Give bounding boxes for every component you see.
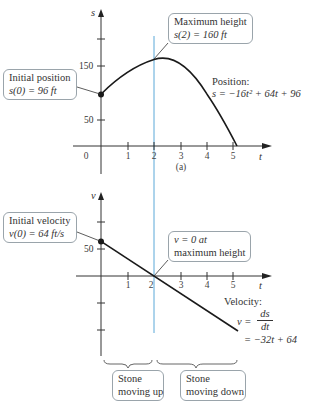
v-tick-50: 50 [84,243,94,255]
t-axis-label-top: t [259,151,262,163]
s-axis-arrow [98,9,104,17]
label-moving-down: Stone moving down [180,370,246,401]
zero-velocity-leader [154,260,168,276]
callout-initial-position: Initial position s(0) = 96 ft [3,69,77,100]
callout-initial-position-value: s(0) = 96 ft [9,85,71,98]
v-x-tick-2: 2 [149,280,154,290]
t-axis-label-bottom: t [259,280,262,292]
brace-moving-down [157,360,237,368]
velocity-formula-numerator: ds [258,308,272,320]
initial-velocity-leader [77,232,100,241]
x-tick-2: 2 [152,151,157,161]
position-formula: s = −16t² + 64t + 96 [212,88,301,100]
label-moving-down-line2: moving down [186,386,240,399]
x-tick-3: 3 [179,151,184,161]
y-tick-150: 150 [79,60,93,72]
velocity-formula-denominator: dt [258,321,272,333]
max-height-leader [154,43,168,59]
position-curve [101,58,237,146]
label-moving-up: Stone moving up [112,370,164,401]
v-axis-arrow [98,192,104,200]
initial-velocity-point [98,239,104,245]
bottom-axes [76,196,268,356]
v-axis-label: v [91,190,96,202]
initial-position-point [98,92,104,98]
callout-zero-velocity-value: maximum height [174,247,245,260]
initial-position-leader [77,87,100,94]
callout-initial-position-title: Initial position [9,72,71,85]
callout-zero-velocity-title: v = 0 at [174,234,245,247]
brace-moving-up [104,360,152,368]
velocity-formula-lhs: v = [237,316,251,328]
callout-max-height: Maximum height s(2) = 160 ft [168,13,253,44]
label-moving-down-line1: Stone [186,373,240,386]
callout-max-height-value: s(2) = 160 ft [174,29,247,42]
callout-initial-velocity-title: Initial velocity [9,215,71,228]
position-formula-title: Position: [212,76,249,88]
callout-zero-velocity: v = 0 at maximum height [168,231,251,262]
callout-initial-velocity-value: v(0) = 64 ft/s [9,228,71,241]
v-x-tick-4: 4 [205,280,210,290]
x-tick-4: 4 [205,151,210,161]
v-x-tick-5: 5 [231,280,236,290]
label-moving-up-line2: moving up [118,386,158,399]
s-axis-label: s [91,7,95,19]
callout-initial-velocity: Initial velocity v(0) = 64 ft/s [3,212,77,243]
v-x-tick-3: 3 [179,280,184,290]
v-x-tick-1: 1 [126,280,131,290]
x-tick-5: 5 [231,151,236,161]
x-tick-0: 0 [84,151,89,161]
t-axis-arrow-bottom [262,273,272,279]
label-moving-up-line1: Stone [118,373,158,386]
y-tick-50: 50 [84,114,94,126]
x-tick-1: 1 [126,151,131,161]
panel-label: (a) [176,162,187,172]
velocity-formula-rhs: = −32t + 64 [244,334,297,346]
callout-max-height-title: Maximum height [174,16,247,29]
velocity-formula-title: Velocity: [224,296,262,308]
t-axis-arrow-top [262,143,272,149]
